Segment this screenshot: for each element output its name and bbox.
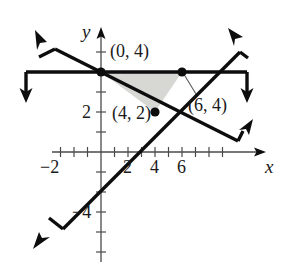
dot-point-0-4 bbox=[96, 67, 105, 76]
point-6-4-leader-line bbox=[185, 76, 196, 94]
line-ascending bbox=[33, 28, 248, 249]
point-label-6-4: (6, 4) bbox=[188, 96, 227, 114]
y-tick-label-2: 2 bbox=[82, 103, 91, 121]
y-axis-label: y bbox=[82, 22, 90, 41]
point-label-0-4: (0, 4) bbox=[110, 42, 149, 60]
dot-point-4-2 bbox=[150, 107, 159, 116]
x-axis-label: x bbox=[265, 157, 273, 176]
point-label-4-2: (4, 2) bbox=[112, 104, 151, 122]
line-ascending-lower-arrowhead bbox=[33, 232, 50, 249]
graph-figure: x y −2 2 4 6 2 −4 (0, 4) (4, 2) (6, 4) bbox=[0, 0, 286, 269]
y-tick-label-minus-4: −4 bbox=[72, 203, 91, 221]
x-tick-label-4: 4 bbox=[150, 158, 159, 176]
line-ascending-upper-arrowhead bbox=[228, 28, 243, 46]
x-tick-label-minus-2: −2 bbox=[40, 158, 59, 176]
dot-point-6-4 bbox=[177, 67, 186, 76]
line-descending-upper-arrowhead bbox=[35, 30, 47, 50]
x-tick-label-2: 2 bbox=[123, 158, 132, 176]
x-tick-label-6: 6 bbox=[177, 158, 186, 176]
